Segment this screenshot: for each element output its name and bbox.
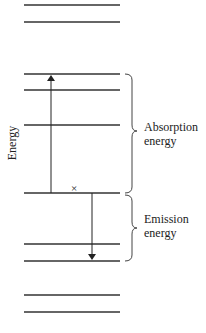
emission-label-line2: energy: [144, 226, 176, 240]
energy-axis-label: Energy: [5, 126, 19, 160]
emission-brace: [125, 195, 137, 261]
energy-level-diagram: × Absorption energy Emission energy Ener…: [0, 0, 206, 333]
energy-levels: [24, 5, 120, 312]
absorption-label-line2: energy: [144, 134, 176, 148]
emission-label-line1: Emission: [144, 212, 189, 226]
absorption-brace: [125, 74, 137, 193]
absorption-label-line1: Absorption: [144, 120, 198, 134]
electron-marker: ×: [71, 182, 77, 194]
